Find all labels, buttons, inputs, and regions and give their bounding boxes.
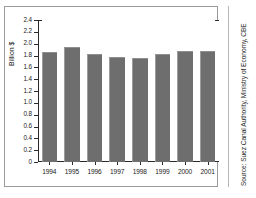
x-tick-mark [72,162,73,165]
y-tick-label: 2.4 [23,17,32,23]
source-note: Source: Suez Canal Authority, Ministry o… [240,23,247,186]
x-axis-right-cap [215,20,219,21]
y-tick-mark [34,115,38,116]
y-tick-mark [34,32,38,33]
y-axis-label: Billion $ [8,41,16,66]
bar [109,57,125,162]
y-tick-label: 0 [29,159,32,165]
source-divider-rule [228,6,229,187]
y-tick-mark [34,138,38,139]
x-tick-mark [208,162,209,165]
y-tick-label: 2.0 [23,40,32,46]
chart-figure: 2.42.22.01.81.61.41.21.00.80.60.40.20 19… [0,0,256,198]
x-tick-mark [95,162,96,165]
y-tick-mark [34,91,38,92]
x-tick-mark [117,162,118,165]
x-tick-mark [49,162,50,165]
y-tick-mark [34,127,38,128]
y-axis-top-cap [38,20,42,21]
bar [200,51,216,162]
y-tick-mark [34,20,38,21]
x-tick-label: 1999 [151,168,174,175]
y-tick-label: 1.8 [23,52,32,58]
x-tick-mark [140,162,141,165]
x-tick-label: 1997 [106,168,129,175]
x-tick-label: 2001 [196,168,219,175]
y-tick-label: 1.2 [23,88,32,94]
x-tick-label: 1994 [38,168,61,175]
x-tick-label: 1998 [129,168,152,175]
y-tick-label: 0.2 [23,147,32,153]
bar [132,58,148,162]
y-tick-label: 1.4 [23,76,32,82]
x-tick-label: 2000 [174,168,197,175]
y-tick-label: 0.4 [23,135,32,141]
y-tick-mark [34,103,38,104]
x-tick-mark [162,162,163,165]
y-tick-mark [34,79,38,80]
y-tick-label: 1.0 [23,99,32,105]
y-tick-label: 2.2 [23,28,32,34]
y-tick-mark [34,67,38,68]
x-tick-mark [185,162,186,165]
x-tick-label: 1995 [61,168,84,175]
bar [64,47,80,162]
y-tick-label: 0.8 [23,111,32,117]
y-tick-mark [34,162,38,163]
y-tick-mark [34,150,38,151]
bar [155,54,171,162]
bar [87,54,103,162]
bar [177,51,193,162]
bar [42,52,58,162]
y-tick-label: 1.6 [23,64,32,70]
x-tick-label: 1996 [83,168,106,175]
y-tick-mark [34,44,38,45]
y-tick-mark [34,56,38,57]
y-tick-label: 0.6 [23,123,32,129]
